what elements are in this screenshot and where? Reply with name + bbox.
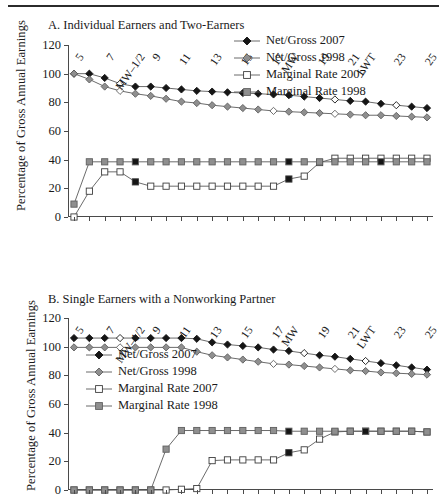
data-point-marker xyxy=(178,159,184,165)
y-tick-mark xyxy=(64,45,68,46)
legend-marker-icon xyxy=(233,85,261,99)
x-tick-mark xyxy=(135,490,136,494)
legend-b: Net/Gross 2007Net/Gross 1998Marginal Rat… xyxy=(85,346,218,414)
data-point-marker xyxy=(301,447,307,453)
x-tick-mark xyxy=(197,217,198,221)
x-tick-mark xyxy=(350,217,351,221)
x-tick-mark xyxy=(427,490,428,494)
data-point-marker xyxy=(117,159,123,165)
data-point-marker xyxy=(409,428,415,434)
x-tick-mark xyxy=(105,490,106,494)
x-tick-mark xyxy=(289,490,290,494)
data-point-marker xyxy=(194,427,200,433)
data-point-marker xyxy=(102,159,108,165)
legend-marker-icon xyxy=(85,399,113,413)
data-point-marker xyxy=(178,86,185,93)
x-tick-mark xyxy=(320,217,321,221)
data-point-marker xyxy=(193,99,200,106)
x-tick-mark xyxy=(181,490,182,494)
data-point-marker xyxy=(117,169,123,175)
legend-marker-icon xyxy=(233,34,261,48)
data-point-marker xyxy=(239,356,246,363)
data-point-marker xyxy=(424,159,430,165)
y-tick-mark xyxy=(64,131,68,132)
x-tick-mark xyxy=(243,217,244,221)
data-point-marker xyxy=(316,364,323,371)
legend-label: Marginal Rate 2007 xyxy=(266,68,366,81)
data-point-marker xyxy=(377,369,384,376)
x-tick-mark xyxy=(151,217,152,221)
data-point-marker xyxy=(347,111,354,118)
data-point-marker xyxy=(193,335,200,342)
data-point-marker xyxy=(209,102,216,109)
panel-b-title: B. Single Earners with a Nonworking Part… xyxy=(48,292,275,307)
legend-label: Net/Gross 1998 xyxy=(118,365,197,378)
data-point-marker xyxy=(316,109,323,116)
x-tick-mark xyxy=(335,217,336,221)
x-tick-mark xyxy=(212,217,213,221)
data-point-marker xyxy=(363,159,369,165)
x-tick-mark xyxy=(381,490,382,494)
data-point-marker xyxy=(393,159,399,165)
y-tick-mark xyxy=(64,102,68,103)
data-point-marker xyxy=(377,112,384,119)
legend-row: Marginal Rate 2007 xyxy=(85,380,218,397)
data-point-marker xyxy=(316,352,323,359)
x-tick-mark xyxy=(304,217,305,221)
data-point-marker xyxy=(86,188,92,194)
data-point-marker xyxy=(285,108,292,115)
x-tick-mark xyxy=(366,490,367,494)
x-tick-mark xyxy=(227,217,228,221)
x-tick-mark xyxy=(89,217,90,221)
x-tick-mark xyxy=(427,217,428,221)
y-tick-mark xyxy=(64,217,68,218)
data-point-marker xyxy=(332,428,338,434)
data-point-marker xyxy=(239,104,246,111)
data-point-marker xyxy=(270,427,276,433)
data-point-marker xyxy=(301,109,308,116)
data-point-marker xyxy=(316,428,322,434)
data-point-marker xyxy=(147,83,154,90)
data-point-marker xyxy=(178,98,185,105)
data-point-marker xyxy=(286,176,292,182)
y-tick-mark xyxy=(64,490,68,491)
data-point-marker xyxy=(301,428,307,434)
legend-a: Net/Gross 2007Net/Gross 1998Marginal Rat… xyxy=(233,32,366,100)
data-point-marker xyxy=(408,113,415,120)
data-point-marker xyxy=(286,450,292,456)
data-point-marker xyxy=(393,102,400,109)
y-tick-mark xyxy=(64,375,68,376)
x-tick-mark xyxy=(243,490,244,494)
legend-row: Net/Gross 2007 xyxy=(233,32,366,49)
data-point-marker xyxy=(331,365,338,372)
data-point-marker xyxy=(224,159,230,165)
data-point-marker xyxy=(393,112,400,119)
x-tick-mark xyxy=(396,490,397,494)
data-point-marker xyxy=(132,159,138,165)
legend-label: Marginal Rate 1998 xyxy=(266,85,366,98)
data-point-marker xyxy=(240,457,246,463)
y-axis-label-b: Percentage of Gross Annual Earnings xyxy=(24,285,39,503)
data-point-marker xyxy=(347,367,354,374)
data-point-marker xyxy=(102,169,108,175)
x-tick-mark xyxy=(120,217,121,221)
x-tick-mark xyxy=(227,490,228,494)
data-point-marker xyxy=(163,159,169,165)
data-point-marker xyxy=(162,95,169,102)
data-point-marker xyxy=(362,112,369,119)
data-point-marker xyxy=(209,88,216,95)
data-point-marker xyxy=(270,159,276,165)
data-point-marker xyxy=(377,100,384,107)
legend-marker-icon xyxy=(233,51,261,65)
legend-label: Marginal Rate 1998 xyxy=(118,399,218,412)
data-point-marker xyxy=(408,370,415,377)
y-axis-label-a: Percentage of Gross Annual Earnings xyxy=(14,11,29,221)
data-point-marker xyxy=(132,179,138,185)
data-point-marker xyxy=(224,183,230,189)
data-point-marker xyxy=(285,361,292,368)
data-point-marker xyxy=(209,458,215,464)
data-point-marker xyxy=(316,159,322,165)
y-tick-mark xyxy=(64,404,68,405)
legend-label: Net/Gross 1998 xyxy=(266,51,345,64)
data-point-marker xyxy=(270,183,276,189)
